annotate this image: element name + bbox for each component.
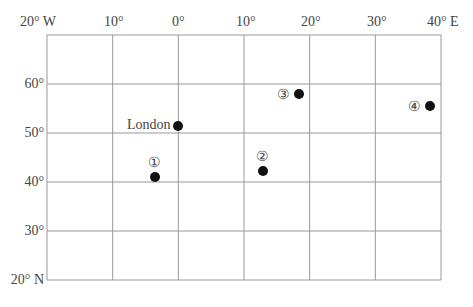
point-label-london: London — [127, 117, 171, 133]
location-dot-london — [173, 121, 183, 131]
latitude-label: 20° N — [11, 272, 44, 288]
latitude-label: 30° — [24, 223, 44, 239]
latitude-label: 50° — [24, 125, 44, 141]
point-label-p2: ② — [256, 148, 269, 165]
location-dot-p1 — [150, 172, 160, 182]
latitude-label: 60° — [24, 76, 44, 92]
longitude-label: 10° — [236, 14, 256, 30]
longitude-label: 20° W — [20, 14, 56, 30]
point-label-p4: ④ — [408, 98, 421, 115]
longitude-label: 30° — [367, 14, 387, 30]
map-grid — [0, 0, 473, 307]
location-dot-p4 — [425, 101, 435, 111]
latitude-label: 40° — [24, 174, 44, 190]
longitude-label: 0° — [172, 14, 185, 30]
longitude-label: 20° — [301, 14, 321, 30]
longitude-label: 40° E — [427, 14, 459, 30]
point-label-p3: ③ — [277, 86, 290, 103]
point-label-p1: ① — [148, 154, 161, 171]
location-dot-p3 — [294, 89, 304, 99]
longitude-label: 10° — [104, 14, 124, 30]
location-dot-p2 — [258, 166, 268, 176]
